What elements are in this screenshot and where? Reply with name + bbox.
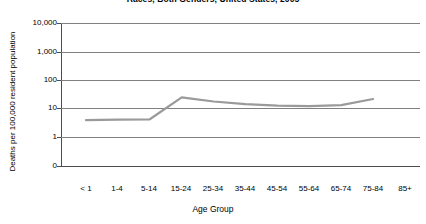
data-series-line — [61, 23, 420, 166]
x-tick-label: 75-84 — [363, 184, 383, 194]
x-tick-label: 15-24 — [171, 184, 191, 194]
y-tick-label: 100 — [0, 76, 57, 84]
x-tick-label: 1-4 — [111, 184, 123, 194]
chart-container: Races, Both Genders, United States, 2005… — [0, 0, 426, 224]
y-tick-label: 1 — [0, 133, 57, 141]
y-tick-label: 10 — [0, 104, 57, 112]
x-axis-tick-labels: < 1 1-4 5-14 15-24 25-34 35-44 45-54 55-… — [0, 184, 426, 196]
x-tick-label: 65-74 — [331, 184, 351, 194]
x-tick-label: 5-14 — [141, 184, 157, 194]
x-tick-label: 85+ — [398, 184, 412, 194]
x-axis-line — [61, 166, 420, 167]
x-tick-label: < 1 — [80, 184, 91, 194]
chart-title: Races, Both Genders, United States, 2005 — [0, 0, 426, 4]
x-axis-title: Age Group — [0, 204, 426, 214]
y-tick-label: 0 — [0, 162, 57, 170]
x-tick-label: 25-34 — [203, 184, 223, 194]
x-tick-label: 35-44 — [235, 184, 255, 194]
x-tick-label: 45-54 — [267, 184, 287, 194]
y-tick-label: 10,000 — [0, 19, 57, 27]
x-tick-label: 55-64 — [299, 184, 319, 194]
y-tick-label: 1,000 — [0, 48, 57, 56]
